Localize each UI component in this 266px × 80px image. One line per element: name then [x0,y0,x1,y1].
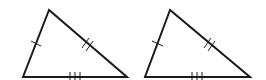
congruent-triangles-diagram [0,0,266,80]
triangle-2-outline [145,10,250,77]
triangle-2 [145,10,250,80]
triangle-1-outline [23,10,127,77]
triangle-1 [23,10,127,80]
